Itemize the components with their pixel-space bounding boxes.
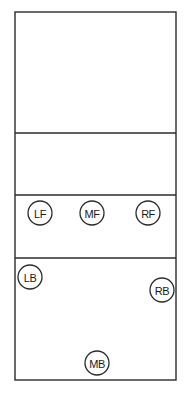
player-lb: LB [18,265,42,289]
court-boundary [15,12,176,380]
player-rb: RB [150,278,174,302]
player-lf: LF [28,201,52,225]
player-label-mb: MB [89,358,105,370]
court-diagram: LF MF RF LB RB MB [0,0,189,394]
player-mf: MF [80,201,104,225]
player-rf: RF [136,201,160,225]
player-label-mf: MF [85,208,101,220]
player-mb: MB [85,351,109,375]
player-label-lf: LF [34,208,47,220]
player-label-rb: RB [155,285,169,297]
player-label-lb: LB [24,272,37,284]
player-label-rf: RF [141,208,155,220]
